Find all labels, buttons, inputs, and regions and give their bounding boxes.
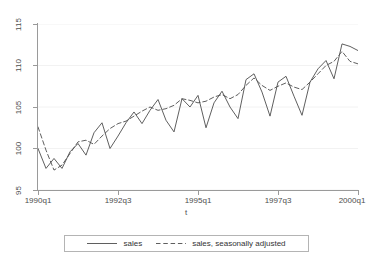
y-tick-mark: [33, 65, 37, 66]
x-axis-title: t: [0, 208, 372, 217]
y-tick-mark: [33, 107, 37, 108]
legend-entry-sales-seasonally-adjusted: sales, seasonally adjusted: [156, 239, 285, 248]
gridlines: [38, 24, 358, 190]
legend-entry-sales: sales: [87, 239, 142, 248]
x-tick-label-1997q3: 1997q3: [256, 196, 300, 205]
x-tick-label-1992q3: 1992q3: [96, 196, 140, 205]
legend-swatch-dashed-icon: [156, 240, 186, 247]
x-tick-mark: [358, 191, 359, 195]
y-tick-label-110: 110: [14, 55, 23, 77]
x-tick-mark: [38, 191, 39, 195]
legend-label-sales: sales: [123, 239, 142, 248]
y-tick-label-105: 105: [14, 97, 23, 119]
x-tick-label-2000q1: 2000q1: [330, 196, 372, 205]
y-tick-mark: [33, 190, 37, 191]
chart-container: 115 110 105 100 95 1990q1 1992q3 1995q1 …: [0, 0, 372, 263]
plot-area: [38, 24, 358, 190]
series-canvas: [38, 24, 358, 190]
x-tick-mark: [198, 191, 199, 195]
y-tick-mark: [33, 148, 37, 149]
legend-label-sales-seasonally-adjusted: sales, seasonally adjusted: [192, 239, 285, 248]
chart-legend: sales sales, seasonally adjusted: [64, 235, 309, 252]
y-tick-label-115: 115: [14, 14, 23, 36]
y-tick-label-100: 100: [14, 138, 23, 160]
y-axis-line: [37, 23, 38, 191]
legend-swatch-solid-icon: [87, 240, 117, 247]
x-tick-mark: [118, 191, 119, 195]
x-tick-label-1995q1: 1995q1: [176, 196, 220, 205]
x-tick-label-1990q1: 1990q1: [16, 196, 60, 205]
x-tick-mark: [278, 191, 279, 195]
series-line-sales: [38, 44, 358, 169]
y-tick-mark: [33, 24, 37, 25]
series-line-sales-seasonally-adjusted: [38, 51, 358, 170]
